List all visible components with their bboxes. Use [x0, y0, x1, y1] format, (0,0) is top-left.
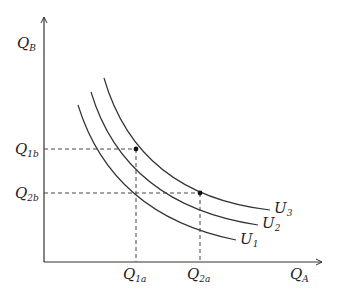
q2a-label: Q2a	[187, 265, 210, 284]
q1a-label: Q1a	[123, 265, 146, 284]
y-axis-label: QB	[17, 34, 36, 53]
x-axis-label: QA	[290, 265, 309, 284]
q1b-label: Q1b	[15, 140, 39, 159]
u3-label: U3	[274, 199, 293, 218]
q2b-label: Q2b	[15, 184, 39, 203]
curve-u2	[91, 92, 258, 225]
curve-u1	[78, 105, 236, 240]
indifference-curve-diagram: QB QA Q1b Q2b Q1a Q2a U3 U2 U1	[0, 0, 337, 295]
point-bundle-2	[198, 191, 203, 196]
curve-u3	[104, 78, 270, 210]
point-bundle-1	[134, 147, 139, 152]
u1-label: U1	[240, 230, 258, 249]
